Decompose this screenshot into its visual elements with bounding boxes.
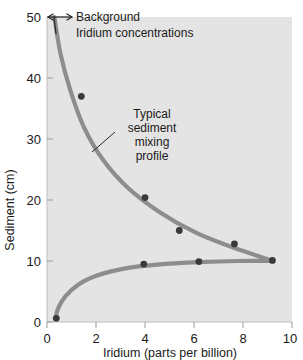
sediment-iridium-chart: 0 10 20 30 40 50 0 2 4 6 8 10 Iridium (p…: [0, 0, 303, 360]
x-axis-title: Iridium (parts per billion): [103, 346, 237, 360]
mixing-profile-annotation-line-2: sediment: [128, 121, 177, 135]
data-point: [176, 227, 183, 234]
x-axis-tickmarks: [47, 322, 292, 328]
data-point: [269, 257, 276, 264]
y-tick-label-50: 50: [27, 10, 41, 25]
x-tick-label-4: 4: [141, 331, 148, 346]
background-annotation-line-1: Background: [76, 10, 140, 24]
x-tick-label-0: 0: [43, 331, 50, 346]
x-tick-label-2: 2: [92, 331, 99, 346]
data-point: [231, 241, 238, 248]
y-tick-label-40: 40: [27, 71, 41, 86]
y-tick-label-30: 30: [27, 132, 41, 147]
mixing-profile-annotation-line-1: Typical: [133, 107, 170, 121]
x-tick-label-6: 6: [190, 331, 197, 346]
y-tick-label-20: 20: [27, 193, 41, 208]
plot-area-background: [47, 17, 292, 322]
data-point: [142, 194, 149, 201]
mixing-profile-annotation-line-3: mixing: [135, 135, 170, 149]
x-tick-label-8: 8: [239, 331, 246, 346]
data-point: [78, 93, 85, 100]
y-axis-title: Sediment (cm): [3, 169, 17, 250]
chart-figure: 0 10 20 30 40 50 0 2 4 6 8 10 Iridium (p…: [0, 0, 303, 360]
y-tick-label-10: 10: [27, 254, 41, 269]
data-point: [196, 258, 203, 265]
mixing-profile-annotation-line-4: profile: [136, 149, 169, 163]
background-annotation-line-2: Iridium concentrations: [76, 26, 193, 40]
x-tick-label-10: 10: [283, 331, 297, 346]
data-point: [140, 261, 147, 268]
y-tick-label-0: 0: [34, 315, 41, 330]
data-point: [53, 315, 60, 322]
